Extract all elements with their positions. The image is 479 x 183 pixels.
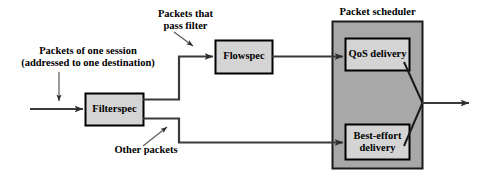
packet-scheduler-label: Packet scheduler bbox=[332, 6, 423, 18]
diagram-canvas: Packets of one session (addressed to one… bbox=[0, 0, 479, 183]
annotation-input-session-line1: Packets of one session bbox=[0, 45, 176, 57]
besteffort-delivery-label: Best-effort delivery bbox=[345, 130, 410, 155]
besteffort-delivery-label-line1: Best-effort bbox=[345, 130, 410, 142]
filterspec-label: Filterspec bbox=[86, 103, 143, 115]
annotation-other-packets: Other packets bbox=[110, 144, 182, 156]
annotation-pass-filter: Packets that pass filter bbox=[133, 8, 238, 33]
annotation-input-session: Packets of one session (addressed to one… bbox=[0, 45, 176, 70]
qos-delivery-label: QoS delivery bbox=[345, 48, 410, 60]
annotation-input-session-line2: (addressed to one destination) bbox=[0, 57, 176, 69]
flowspec-label: Flowspec bbox=[216, 50, 272, 62]
annotation-other-packets-line1: Other packets bbox=[110, 144, 182, 156]
annotation-pass-filter-line1: Packets that bbox=[133, 8, 238, 20]
pass-filter-leader-line bbox=[174, 32, 193, 46]
besteffort-delivery-label-line2: delivery bbox=[345, 142, 410, 154]
path-filterspec-to-besteffort bbox=[143, 119, 343, 143]
annotation-pass-filter-line2: pass filter bbox=[133, 20, 238, 32]
diagram-graphics bbox=[0, 0, 479, 183]
